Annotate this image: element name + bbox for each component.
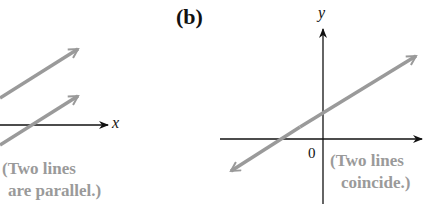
- y-axis-label: y: [318, 4, 325, 22]
- panel-label: (b): [176, 4, 203, 30]
- note-line-2: coincide.): [341, 172, 410, 194]
- note-line-1: (Two lines: [2, 158, 76, 180]
- note-line-1: (Two lines: [330, 150, 404, 172]
- note-line-2: are parallel.): [8, 180, 101, 202]
- parallel-line-lower: [0, 96, 78, 145]
- panel-a: [0, 49, 108, 145]
- origin-label: 0: [308, 145, 316, 162]
- x-axis-label: x: [112, 114, 119, 132]
- coincident-line-back: [231, 127, 300, 171]
- parallel-line-upper: [0, 49, 78, 98]
- coincident-line: [300, 56, 416, 127]
